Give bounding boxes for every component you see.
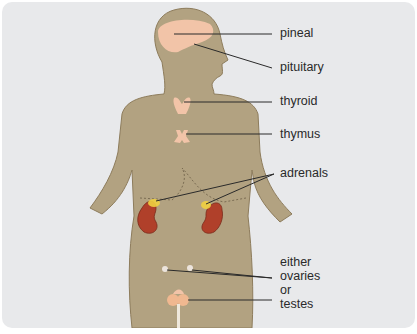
- label-testes: testes: [280, 297, 313, 311]
- diagram-panel: pineal pituitary thyroid thymus adrenals…: [2, 2, 415, 328]
- body-silhouette: [90, 8, 292, 328]
- label-pituitary: pituitary: [280, 60, 324, 74]
- label-ovaries: ovaries: [280, 269, 320, 283]
- label-either: either: [280, 255, 311, 269]
- body-figure: [2, 2, 415, 328]
- left-ovary: [162, 266, 168, 272]
- label-thymus: thymus: [280, 127, 320, 141]
- label-or: or: [280, 283, 291, 297]
- label-thyroid: thyroid: [280, 94, 318, 108]
- label-pineal: pineal: [280, 26, 313, 40]
- label-adrenals: adrenals: [280, 166, 328, 180]
